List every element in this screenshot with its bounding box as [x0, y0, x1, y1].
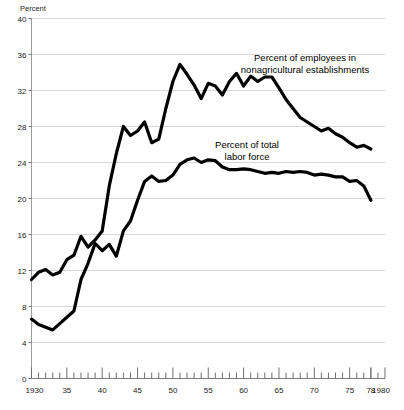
annotation-nonagricultural: Percent of employees innonagricultural e… — [241, 52, 370, 75]
chart-container: 0481216202428323640 19303540455055606570… — [0, 0, 404, 410]
y-tick-label: 8 — [22, 303, 27, 312]
y-tick-label: 16 — [18, 231, 27, 240]
y-axis-title: Percent — [20, 4, 47, 13]
y-tick-label: 28 — [18, 123, 27, 132]
y-tick-label: 36 — [18, 51, 27, 60]
annotation-total-labor-force: Percent of totallabor force — [215, 139, 279, 162]
x-tick-label: 70 — [310, 386, 319, 395]
x-tick-label: 1980 — [372, 386, 390, 395]
x-tick-label: 40 — [98, 386, 107, 395]
x-tick-label: 60 — [239, 386, 248, 395]
y-tick-label: 32 — [18, 87, 27, 96]
y-tick-label: 4 — [22, 339, 27, 348]
y-tick-label: 20 — [18, 195, 27, 204]
x-tick-label: 35 — [62, 386, 71, 395]
x-tick-label: 50 — [168, 386, 177, 395]
x-tick-label: 55 — [204, 386, 213, 395]
y-tick-label: 0 — [22, 375, 27, 384]
x-tick-label: 1930 — [26, 386, 44, 395]
x-tick-label: 65 — [274, 386, 283, 395]
y-tick-label: 40 — [18, 15, 27, 24]
line-chart: 0481216202428323640 19303540455055606570… — [0, 0, 404, 410]
x-tick-label: 75 — [345, 386, 354, 395]
y-tick-label: 24 — [18, 159, 27, 168]
x-tick-label: 45 — [133, 386, 142, 395]
y-tick-label: 12 — [18, 267, 27, 276]
